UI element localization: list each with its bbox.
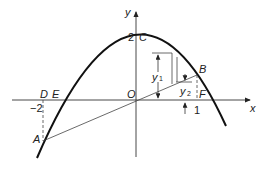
y2-label: y: [179, 85, 187, 97]
y1-label: y: [151, 71, 159, 83]
y-axis-label: y: [124, 6, 132, 18]
point-c-label: C: [139, 31, 147, 43]
chord-ab: [43, 75, 197, 141]
point-b-label: B: [199, 63, 206, 75]
point-d-label: D: [40, 88, 48, 100]
point-e-label: E: [52, 88, 60, 100]
point-f-label: F: [199, 88, 207, 100]
tick-1: 1: [194, 104, 200, 116]
parabola-diagram: y x 2 C O D E −2 A B F 1 y 1 y 2: [0, 0, 261, 171]
point-o-label: O: [127, 88, 136, 100]
point-a-label: A: [32, 133, 40, 145]
tick-2: 2: [128, 31, 134, 43]
x-axis-label: x: [249, 102, 256, 114]
y1-sub: 1: [159, 75, 163, 82]
y2-sub: 2: [187, 90, 191, 97]
tick-neg2: −2: [30, 102, 43, 114]
